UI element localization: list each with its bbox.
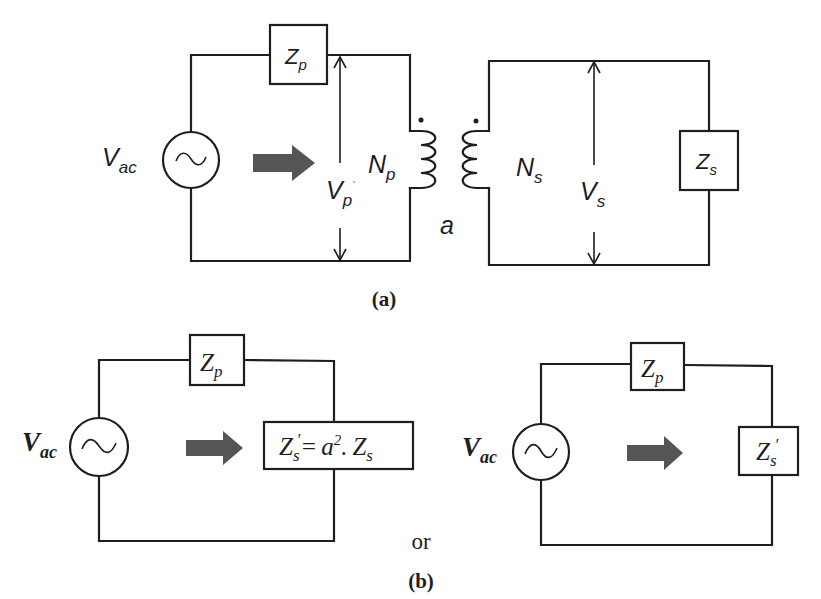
primary-voltage-arrow-icon <box>334 57 346 260</box>
secondary-coil-icon <box>463 119 489 189</box>
ns-label: Ns <box>516 153 543 187</box>
left-ac-source-icon <box>70 418 128 476</box>
primary-impedance-box: Zp <box>270 25 327 84</box>
power-flow-arrow-icon <box>253 145 315 181</box>
right-referred-impedance-box: Zs′ <box>739 427 798 475</box>
ac-source-icon <box>163 132 219 188</box>
panel-b-left-circuit: Zp Vac Zs′=a2.Zs <box>22 335 413 541</box>
turns-ratio-label: a <box>440 211 454 239</box>
right-zs-prime-label: Zs′ <box>756 435 779 470</box>
right-power-flow-arrow-icon <box>627 436 683 470</box>
right-primary-impedance-box: Zp <box>631 343 684 390</box>
secondary-impedance-box: Zs <box>680 131 738 190</box>
vp-label: Vp` <box>326 176 356 210</box>
right-vac-label: Vac <box>462 432 497 467</box>
right-ac-source-icon <box>513 424 569 480</box>
primary-coil-icon <box>410 118 435 189</box>
caption-b: (b) <box>408 569 434 593</box>
vac-label: Vac <box>102 143 137 177</box>
vs-label: Vs <box>580 177 606 211</box>
secondary-polarity-dot <box>474 119 479 124</box>
panel-b-right-circuit: Zp Vac Zs′ <box>462 343 798 545</box>
secondary-voltage-arrow-icon <box>588 62 600 264</box>
referred-impedance-box: Zs′=a2.Zs <box>264 422 413 469</box>
caption-a: (a) <box>372 287 397 311</box>
primary-polarity-dot <box>419 118 424 123</box>
np-label: Np <box>368 150 396 184</box>
transformer-diagram: Zp Vac Vp` Np a <box>0 0 821 599</box>
panel-a: Zp Vac Vp` Np a <box>102 25 738 311</box>
left-vac-label: Vac <box>22 427 57 462</box>
left-primary-impedance-box: Zp <box>190 335 244 385</box>
left-power-flow-arrow-icon <box>186 431 243 465</box>
or-separator: or <box>411 529 431 554</box>
